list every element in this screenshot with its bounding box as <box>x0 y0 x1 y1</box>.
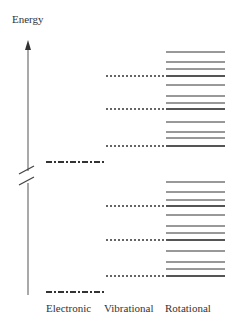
vibrational-levels <box>106 76 166 276</box>
energy-axis-label: Energy <box>12 13 44 25</box>
electronic-levels <box>46 162 105 292</box>
axis-break-mark <box>19 166 34 174</box>
column-label-rotational: Rotational <box>165 302 211 314</box>
axis-break-mark <box>19 177 34 185</box>
column-label-electronic: Electronic <box>46 302 91 314</box>
energy-axis <box>19 40 34 295</box>
rotational-levels <box>166 52 225 276</box>
energy-level-diagram: Energy Electronic Vibrational Rotational <box>0 0 236 326</box>
column-label-vibrational: Vibrational <box>104 302 153 314</box>
arrow-up-icon <box>25 40 31 50</box>
